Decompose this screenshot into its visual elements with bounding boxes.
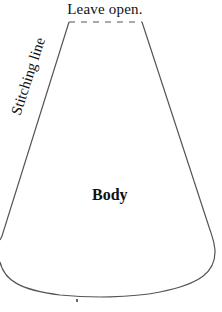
body-label: Body <box>92 186 128 204</box>
leave-open-label: Leave open. <box>0 1 210 18</box>
